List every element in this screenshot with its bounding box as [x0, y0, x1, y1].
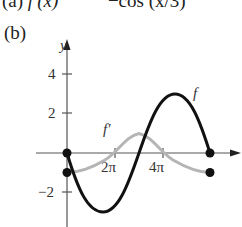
chart: y 4 2 −2 2π 4π f f′: [0, 0, 242, 227]
fprime-label: f′: [103, 121, 111, 137]
x-axis-arrow-icon: [230, 150, 241, 157]
fprime-start-point: [63, 168, 72, 177]
x-tick-label-4pi: 4π: [149, 159, 165, 175]
fprime-end-point: [206, 168, 215, 177]
f-start-point: [63, 149, 72, 158]
f-label: f: [193, 85, 199, 101]
y-axis-label: y: [58, 37, 67, 53]
y-tick-label-2: 2: [48, 105, 56, 121]
y-tick-label-4: 4: [48, 66, 56, 82]
f-end-point: [206, 149, 215, 158]
y-tick-label-neg2: −2: [38, 184, 54, 200]
